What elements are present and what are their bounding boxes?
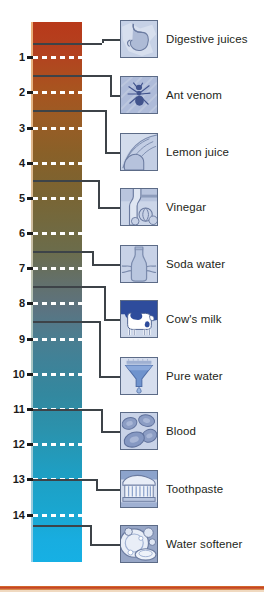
tick-stub-6 — [27, 232, 33, 235]
tick-stub-14 — [27, 514, 33, 517]
tick-label-wrap-9: 9 — [0, 334, 25, 345]
leader-cow-icon-h2 — [104, 319, 120, 321]
leader-ant-icon-h1 — [33, 75, 110, 77]
lemon-icon — [121, 134, 157, 170]
item-label-pure-water: Pure water — [166, 370, 223, 382]
tick-stub-4 — [27, 162, 33, 165]
item-label-blood: Blood — [166, 425, 196, 437]
tick-stub-12 — [27, 443, 33, 446]
leader-soda-bottle-icon-h2 — [92, 264, 120, 266]
dishes-icon — [121, 526, 157, 562]
tick-dash-7 — [33, 267, 82, 270]
tick-label-5: 5 — [19, 193, 25, 203]
tick-label-wrap-14: 14 — [0, 510, 25, 521]
leader-dishes-icon-h2 — [90, 544, 120, 546]
item-label-ant-venom: Ant venom — [166, 89, 222, 101]
leader-dishes-icon-v — [90, 525, 92, 544]
tick-label-13: 13 — [13, 474, 25, 484]
tick-dash-4 — [33, 162, 82, 165]
tick-label-wrap-3: 3 — [0, 123, 25, 134]
tick-dash-5 — [33, 197, 82, 200]
item-label-cows-milk: Cow's milk — [166, 313, 222, 325]
funnel-drop-icon — [121, 358, 157, 394]
stomach-icon — [121, 21, 157, 57]
tick-label-wrap-7: 7 — [0, 263, 25, 274]
tick-label-wrap-5: 5 — [0, 193, 25, 204]
icon-box-pure-water[interactable] — [120, 357, 158, 395]
item-label-lemon-juice: Lemon juice — [166, 146, 229, 158]
icon-box-toothpaste[interactable] — [120, 470, 158, 508]
tick-stub-3 — [27, 127, 33, 130]
leader-ant-icon-h2 — [110, 95, 120, 97]
leader-funnel-drop-icon-h1 — [33, 321, 99, 323]
leader-lemon-icon-v — [105, 110, 107, 152]
leader-funnel-drop-icon-h2 — [99, 376, 120, 378]
tick-label-wrap-6: 6 — [0, 228, 25, 239]
tick-label-wrap-13: 13 — [0, 474, 25, 485]
item-label-toothpaste: Toothpaste — [166, 483, 223, 495]
blood-cells-icon — [121, 413, 157, 449]
tick-label-3: 3 — [19, 123, 25, 133]
icon-box-cows-milk[interactable] — [120, 300, 158, 338]
tick-label-8: 8 — [19, 298, 25, 308]
tick-stub-8 — [27, 302, 33, 305]
leader-cow-icon-h1 — [33, 286, 104, 288]
icon-box-ant-venom[interactable] — [120, 76, 158, 114]
tick-label-1: 1 — [19, 52, 25, 62]
icon-box-digestive-juices[interactable] — [120, 20, 158, 58]
leader-ant-icon-v — [110, 75, 112, 95]
leader-stomach-icon-h2 — [102, 39, 120, 41]
tick-dash-2 — [33, 91, 82, 94]
leader-stomach-icon-h1 — [33, 43, 102, 45]
tick-stub-5 — [27, 197, 33, 200]
leader-soda-bottle-icon-v — [92, 251, 94, 264]
item-label-water-softener: Water softener — [166, 538, 242, 550]
tick-stub-2 — [27, 91, 33, 94]
ph-scale-diagram: 1234567891011121314 Digestive juices — [0, 0, 264, 593]
tick-label-7: 7 — [19, 263, 25, 273]
leader-blood-cells-icon-h1 — [33, 409, 101, 411]
icon-box-vinegar[interactable] — [120, 188, 158, 226]
tick-label-wrap-12: 12 — [0, 439, 25, 450]
leader-vinegar-bottle-icon-v — [98, 180, 100, 207]
toothpaste-icon — [121, 471, 157, 507]
bottom-accent-rule-highlight — [0, 590, 264, 592]
leader-vinegar-bottle-icon-h2 — [98, 207, 120, 209]
tick-dash-6 — [33, 232, 82, 235]
icon-box-blood[interactable] — [120, 412, 158, 450]
tick-label-12: 12 — [13, 439, 25, 449]
ant-icon — [121, 77, 157, 113]
icon-box-water-softener[interactable] — [120, 525, 158, 563]
tick-label-10: 10 — [13, 369, 25, 379]
leader-soda-bottle-icon-h1 — [33, 251, 92, 253]
tick-stub-7 — [27, 267, 33, 270]
item-label-soda-water: Soda water — [166, 258, 225, 270]
tick-dash-8 — [33, 302, 82, 305]
tick-stub-10 — [27, 373, 33, 376]
leader-toothpaste-icon-v — [96, 479, 98, 489]
leader-blood-cells-icon-v — [101, 409, 103, 431]
tick-label-4: 4 — [19, 158, 25, 168]
tick-label-wrap-4: 4 — [0, 158, 25, 169]
tick-dash-12 — [33, 443, 82, 446]
tick-label-9: 9 — [19, 334, 25, 344]
tick-label-wrap-2: 2 — [0, 87, 25, 98]
tick-label-wrap-11: 11 — [0, 404, 25, 415]
tick-label-wrap-10: 10 — [0, 369, 25, 380]
tick-dash-3 — [33, 127, 82, 130]
tick-dash-1 — [33, 56, 82, 59]
tick-dash-9 — [33, 338, 82, 341]
vinegar-bottle-icon — [121, 189, 157, 225]
leader-cow-icon-v — [104, 286, 106, 319]
icon-box-lemon-juice[interactable] — [120, 133, 158, 171]
leader-blood-cells-icon-h2 — [101, 431, 120, 433]
leader-lemon-icon-h2 — [105, 152, 120, 154]
leader-toothpaste-icon-h2 — [96, 489, 120, 491]
tick-label-wrap-1: 1 — [0, 52, 25, 63]
tick-stub-9 — [27, 338, 33, 341]
icon-box-soda-water[interactable] — [120, 245, 158, 283]
tick-label-6: 6 — [19, 228, 25, 238]
leader-dishes-icon-h1 — [33, 525, 90, 527]
leader-lemon-icon-h1 — [33, 110, 105, 112]
tick-stub-1 — [27, 56, 33, 59]
